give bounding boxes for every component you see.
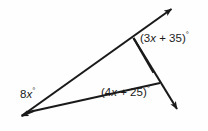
- angle-label-left-vertex: 8x°: [20, 89, 35, 101]
- degree-symbol: °: [32, 86, 35, 95]
- geometry-diagram-svg: [0, 0, 208, 131]
- diagram-strokes: [22, 9, 178, 116]
- angle-expression-operator: +: [156, 32, 169, 44]
- angle-expression-operator: +: [117, 86, 130, 98]
- degree-symbol: °: [186, 30, 189, 39]
- degree-symbol: °: [147, 84, 150, 93]
- geometry-figure: (3x + 35)° (4x + 25)° 8x°: [0, 0, 208, 131]
- angle-label-lower-right: (4x + 25)°: [101, 87, 150, 99]
- angle-expression-constant: 25: [130, 86, 143, 98]
- angle-expression-constant: 35: [169, 32, 182, 44]
- angle-label-upper-right: (3x + 35)°: [140, 33, 189, 45]
